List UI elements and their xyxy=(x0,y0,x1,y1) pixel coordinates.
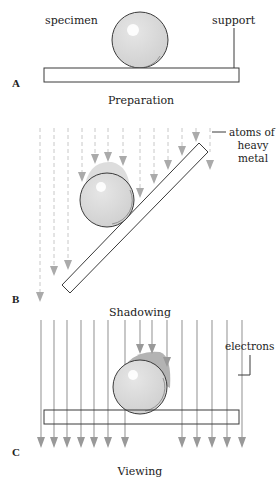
support-slab xyxy=(44,68,239,82)
shadowing-diagram: specimen support A Preparation xyxy=(0,0,278,484)
tilted-support-slab xyxy=(62,143,208,293)
specimen-sphere-view xyxy=(113,360,167,414)
panel-c: electrons C Viewing xyxy=(12,320,274,478)
electrons-label: electrons xyxy=(225,340,274,352)
atoms-label-line1: atoms of xyxy=(229,126,276,138)
panel-letter-a: A xyxy=(12,77,20,89)
panel-letter-b: B xyxy=(12,293,20,305)
atoms-label-line3: metal xyxy=(238,152,269,164)
panel-b: atoms of heavy metal B Shadowing xyxy=(12,126,276,319)
specimen-label: specimen xyxy=(45,14,98,27)
support-label: support xyxy=(212,14,256,27)
caption-preparation: Preparation xyxy=(108,94,174,107)
atoms-label-line2: heavy xyxy=(237,139,268,151)
panel-a: specimen support A Preparation xyxy=(12,12,256,107)
caption-viewing: Viewing xyxy=(117,465,163,478)
electrons-leader-line xyxy=(238,355,250,375)
caption-shadowing: Shadowing xyxy=(109,306,171,319)
specimen-sphere xyxy=(112,12,168,68)
specimen-sphere-tilted xyxy=(80,173,134,227)
panel-letter-c: C xyxy=(12,446,20,458)
